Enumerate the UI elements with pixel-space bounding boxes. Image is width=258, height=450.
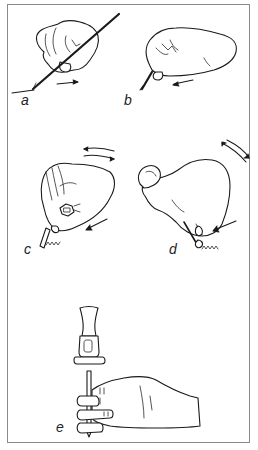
- panel-a-label: a: [21, 93, 29, 107]
- panel-a-drawing: [12, 14, 119, 93]
- panel-c-label: c: [24, 242, 31, 256]
- panel-d-drawing: [138, 140, 249, 249]
- panel-c-drawing: [40, 147, 115, 248]
- panel-d-label: d: [169, 242, 177, 256]
- illustration: [0, 0, 258, 450]
- panel-e-label: e: [56, 420, 64, 434]
- panel-b-label: b: [124, 93, 132, 107]
- panel-e-drawing: [74, 307, 200, 438]
- panel-b-drawing: [140, 28, 236, 90]
